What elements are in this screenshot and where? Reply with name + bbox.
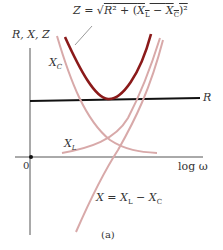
xc-label: XC (49, 56, 62, 71)
xc-label-sub: C (57, 63, 62, 71)
impedance-diagram: Z = √R² + (XL − XC)² R, X, Z XC R XL 0 l… (0, 0, 223, 250)
xc-label-main: X (49, 56, 57, 69)
origin-dot (29, 155, 33, 159)
xl-label-sub: L (72, 144, 77, 152)
r-label: R (203, 91, 211, 104)
y-axis-label: R, X, Z (12, 28, 50, 41)
x-axis-label: log ω (178, 160, 208, 173)
caption: (a) (101, 229, 115, 240)
x-formula-label: X = XL − XC (96, 191, 162, 206)
xl-label: XL (64, 137, 77, 152)
z-leader-line (75, 26, 92, 45)
z-curve (65, 34, 151, 99)
z-formula-label: Z = √R² + (XL − XC)² (73, 4, 188, 19)
origin-label: 0 (23, 160, 29, 171)
xl-label-main: X (64, 137, 72, 150)
